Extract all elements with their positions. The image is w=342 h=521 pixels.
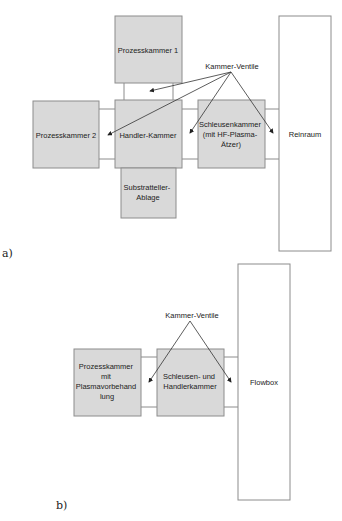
caption-a: a) — [2, 247, 13, 260]
valve-label-b: Kammer-Ventile — [165, 311, 218, 320]
caption-b: b) — [56, 499, 67, 512]
diagram-canvas: Prozesskammer 1 Prozesskammer 2 Handler-… — [0, 0, 342, 521]
label-schleusen-handler: Schleusen- und Handlerkammer — [163, 372, 217, 391]
label-handler: Handler-Kammer — [119, 131, 177, 140]
label-pk1: Prozesskammer 1 — [118, 46, 178, 55]
valve-label-a: Kammer-Ventile — [205, 62, 258, 71]
label-flowbox: Flowbox — [250, 378, 278, 387]
label-pk2: Prozesskammer 2 — [36, 131, 96, 140]
diagram-b: Prozesskammer mit Plasmavorbehand lung S… — [56, 264, 290, 512]
label-reinraum: Reinraum — [289, 130, 322, 139]
diagram-a: Prozesskammer 1 Prozesskammer 2 Handler-… — [2, 16, 331, 260]
